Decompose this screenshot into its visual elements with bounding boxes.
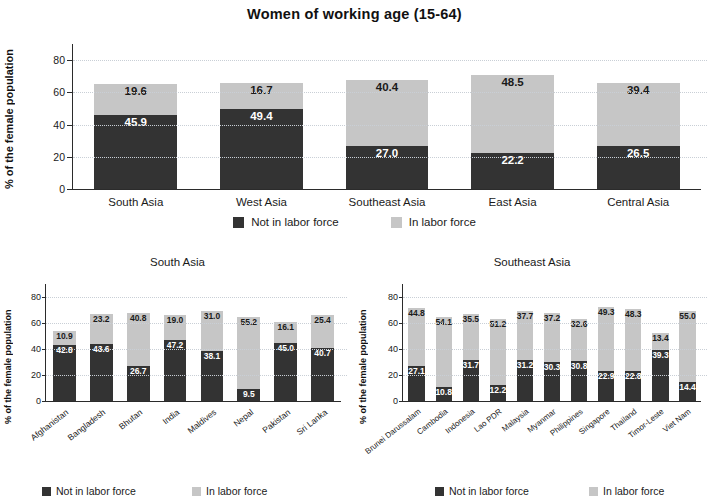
bar-segment-not-in-labor-force[interactable]: 49.4	[220, 109, 303, 189]
bar-slot: 48.322.8Thailand	[620, 284, 647, 401]
bar-segment-not-in-labor-force[interactable]: 42.8	[53, 345, 76, 401]
bar-segment-in-labor-force[interactable]: 49.3	[598, 307, 614, 371]
bar-segment-in-labor-force[interactable]: 55.0	[679, 311, 695, 382]
stacked-bar[interactable]: 16.145.0	[274, 322, 297, 401]
gridline	[73, 92, 707, 93]
stacked-bar[interactable]: 25.440.7	[311, 315, 334, 401]
stacked-bar[interactable]: 40.826.7	[127, 313, 150, 401]
stacked-bar[interactable]: 40.427.0	[346, 80, 429, 189]
bar-segment-in-labor-force[interactable]: 40.8	[127, 313, 150, 366]
stacked-bar[interactable]: 16.749.4	[220, 83, 303, 189]
legend-item-not-in-labor-force: Not in labor force	[435, 485, 529, 497]
bar-slot: 44.827.1Brunei Darussalam	[403, 284, 430, 401]
legend-swatch-light-icon	[192, 487, 201, 496]
x-axis-tick-label: Viet Nam	[662, 407, 693, 434]
bar-segment-in-labor-force[interactable]: 55.2	[237, 317, 260, 389]
bar-segment-in-labor-force[interactable]: 25.4	[311, 315, 334, 348]
stacked-bar[interactable]: 39.426.5	[597, 83, 680, 189]
x-axis-tick-label: Maldives	[186, 407, 219, 436]
stacked-bar[interactable]: 49.322.9	[598, 307, 614, 401]
y-axis-tick-label: 60	[31, 318, 41, 328]
bar-segment-not-in-labor-force[interactable]: 43.6	[90, 344, 113, 401]
southeast-asia-chart: Southeast Asia % of the female populatio…	[355, 250, 709, 501]
bar-segment-not-in-labor-force[interactable]: 30.8	[571, 361, 587, 401]
bar-value-label: 44.8	[408, 309, 425, 318]
bar-slot: 39.426.5Central Asia	[575, 44, 701, 189]
stacked-bar[interactable]: 19.047.2	[164, 315, 187, 401]
bar-segment-in-labor-force[interactable]: 37.7	[517, 311, 533, 360]
legend-swatch-dark-icon	[42, 487, 51, 496]
stacked-bar[interactable]: 23.243.6	[90, 314, 113, 401]
bar-slot: 55.014.4Viet Nam	[674, 284, 701, 401]
bar-segment-not-in-labor-force[interactable]: 9.5	[237, 389, 260, 401]
y-axis-tick	[67, 60, 73, 61]
bar-slot: 54.110.8Cambodia	[430, 284, 457, 401]
bar-value-label: 40.8	[130, 314, 147, 323]
gridline	[46, 349, 347, 350]
bar-value-label: 30.3	[544, 363, 561, 372]
y-axis-tick-label: 60	[53, 86, 65, 98]
bar-segment-in-labor-force[interactable]: 31.0	[201, 311, 224, 351]
x-axis-tick-label: Bangladesh	[66, 407, 108, 443]
regions-bar-group: 19.645.9South Asia16.749.4West Asia40.42…	[73, 44, 701, 189]
bar-value-label: 31.0	[204, 312, 221, 321]
x-axis-tick-label: West Asia	[236, 196, 287, 208]
stacked-bar[interactable]: 19.645.9	[94, 83, 177, 189]
bar-segment-not-in-labor-force[interactable]: 26.7	[127, 366, 150, 401]
bar-segment-in-labor-force[interactable]: 10.9	[53, 331, 76, 345]
bar-segment-not-in-labor-force[interactable]: 30.3	[544, 362, 560, 401]
bar-segment-not-in-labor-force[interactable]: 27.0	[346, 146, 429, 189]
bar-segment-in-labor-force[interactable]: 48.5	[471, 75, 554, 153]
bar-segment-in-labor-force[interactable]: 48.3	[625, 309, 641, 372]
stacked-bar[interactable]: 55.29.5	[237, 317, 260, 401]
stacked-bar[interactable]: 13.439.3	[652, 333, 668, 402]
bar-segment-in-labor-force[interactable]: 23.2	[90, 314, 113, 344]
legend-item-not-in-labor-force: Not in labor force	[42, 485, 136, 497]
bar-segment-in-labor-force[interactable]: 16.7	[220, 83, 303, 110]
southeast-asia-bar-group: 44.827.1Brunei Darussalam54.110.8Cambodi…	[403, 284, 701, 401]
bar-segment-in-labor-force[interactable]: 19.0	[164, 315, 187, 340]
stacked-bar[interactable]: 37.731.2	[517, 311, 533, 401]
bar-segment-not-in-labor-force[interactable]: 27.1	[408, 366, 424, 401]
bar-segment-in-labor-force[interactable]: 16.1	[274, 322, 297, 343]
bar-segment-in-labor-force[interactable]: 13.4	[652, 333, 668, 350]
stacked-bar[interactable]: 44.827.1	[408, 308, 424, 401]
bar-segment-in-labor-force[interactable]: 40.4	[346, 80, 429, 145]
bar-segment-not-in-labor-force[interactable]: 45.0	[274, 343, 297, 401]
stacked-bar[interactable]: 54.110.8	[436, 317, 452, 401]
bar-segment-in-labor-force[interactable]: 44.8	[408, 308, 424, 366]
bar-segment-not-in-labor-force[interactable]: 22.2	[471, 153, 554, 189]
stacked-bar[interactable]: 32.630.8	[571, 319, 587, 401]
bar-segment-not-in-labor-force[interactable]: 14.4	[679, 382, 695, 401]
bar-slot: 23.243.6Bangladesh	[83, 284, 120, 401]
bar-segment-in-labor-force[interactable]: 32.6	[571, 319, 587, 361]
bar-segment-not-in-labor-force[interactable]: 31.7	[463, 360, 479, 401]
bar-segment-in-labor-force[interactable]: 35.5	[463, 314, 479, 360]
stacked-bar[interactable]: 55.014.4	[679, 311, 695, 401]
legend-label-not-in-labor-force: Not in labor force	[56, 485, 136, 497]
y-axis-tick	[42, 401, 46, 402]
bar-slot: 31.038.1Maldives	[194, 284, 231, 401]
stacked-bar[interactable]: 35.531.7	[463, 314, 479, 401]
bar-segment-not-in-labor-force[interactable]: 10.8	[436, 387, 452, 401]
stacked-bar[interactable]: 51.212.2	[490, 319, 506, 401]
gridline	[46, 297, 347, 298]
bar-value-label: 22.8	[625, 372, 642, 381]
bar-segment-in-labor-force[interactable]: 37.2	[544, 313, 560, 361]
bar-slot: 48.522.2East Asia	[450, 44, 576, 189]
stacked-bar[interactable]: 31.038.1	[201, 311, 224, 401]
stacked-bar[interactable]: 37.230.3	[544, 313, 560, 401]
legend-swatch-light-icon	[589, 487, 598, 496]
regions-plot: 19.645.9South Asia16.749.4West Asia40.42…	[72, 44, 701, 190]
x-axis-tick-label: Pakistan	[260, 407, 292, 435]
stacked-bar[interactable]: 10.942.8	[53, 331, 76, 401]
bar-value-label: 10.8	[435, 388, 452, 397]
bar-segment-not-in-labor-force[interactable]: 31.2	[517, 360, 533, 401]
bar-segment-not-in-labor-force[interactable]: 26.5	[597, 146, 680, 189]
bar-segment-not-in-labor-force[interactable]: 45.9	[94, 115, 177, 189]
bar-segment-not-in-labor-force[interactable]: 38.1	[201, 351, 224, 401]
bar-segment-not-in-labor-force[interactable]: 12.2	[490, 385, 506, 401]
bar-value-label: 37.2	[544, 314, 561, 323]
bar-segment-in-labor-force[interactable]: 54.1	[436, 317, 452, 387]
bar-segment-in-labor-force[interactable]: 19.6	[94, 84, 177, 116]
